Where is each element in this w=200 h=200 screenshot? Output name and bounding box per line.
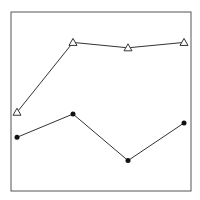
line-chart	[0, 0, 200, 200]
triangle-marker-icon	[180, 38, 188, 45]
series-triangles	[13, 38, 188, 115]
plot-frame	[11, 12, 191, 191]
circle-marker-icon	[126, 158, 131, 163]
series-line	[17, 42, 184, 112]
circle-marker-icon	[182, 120, 187, 125]
circle-marker-icon	[71, 112, 76, 117]
circle-marker-icon	[15, 135, 20, 140]
triangle-marker-icon	[69, 38, 77, 45]
series-line	[17, 114, 184, 161]
series-layer	[13, 38, 188, 163]
series-circles	[15, 112, 187, 164]
